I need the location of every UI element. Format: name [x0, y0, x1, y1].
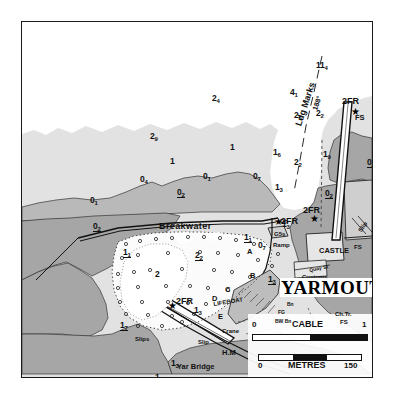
- sounding-23: 11: [123, 248, 131, 258]
- sounding-27: 13: [194, 306, 202, 315]
- light-2fr-inner-label: 2FR: [176, 297, 193, 306]
- sounding-7: 1: [170, 157, 175, 166]
- metres-max-label: 150: [344, 362, 357, 370]
- castle-label: CASTLE: [319, 247, 349, 255]
- sounding-11: 02: [367, 158, 373, 168]
- mooring-trot-d: D: [212, 295, 217, 303]
- scale-bar-metres: 0 METRES 150: [258, 354, 362, 373]
- light-2fr-bw-star-icon: ★: [274, 217, 283, 227]
- sounding-12: 04: [140, 175, 148, 184]
- chart-frame: 1144124252229111622190204010713020201021…: [21, 21, 373, 378]
- sounding-9: 22: [294, 158, 302, 167]
- sounding-14: 07: [253, 172, 261, 181]
- sounding-30: 14: [155, 373, 163, 378]
- light-2fr-pier-label: 2FR: [342, 97, 359, 106]
- cable-max-label: 1: [362, 321, 366, 329]
- metres-min-label: 0: [258, 362, 262, 370]
- cable-bar-fill: [310, 335, 367, 340]
- sounding-21: 11: [244, 233, 252, 243]
- light-2fr-bw-label: 2FR: [281, 217, 298, 226]
- sounding-2: 24: [212, 94, 220, 103]
- light-g5s-label: G5s: [274, 231, 285, 237]
- cable-bar-track: [252, 334, 368, 341]
- cable-unit-label: CABLE: [292, 320, 323, 329]
- sounding-10: 19: [323, 150, 331, 159]
- yar-bridge-label: Yar Bridge: [177, 363, 215, 371]
- crane-label: Crane: [222, 328, 239, 334]
- sounding-15: 13: [275, 183, 283, 192]
- rsyc-quay-block: [344, 180, 372, 240]
- church-tower-label: Ch.Tr.: [335, 311, 352, 317]
- sounding-28: 17: [120, 321, 128, 331]
- chart-root: 1144124252229111622190204010713020201021…: [0, 0, 393, 398]
- sounding-19: 02: [93, 222, 101, 232]
- sounding-5: 29: [150, 132, 158, 141]
- sounding-13: 01: [203, 172, 211, 181]
- slips-west-label: Slips: [135, 336, 149, 342]
- sounding-0: 114: [316, 61, 328, 70]
- ramp-label: Ramp: [273, 242, 290, 248]
- sounding-25: 2: [155, 270, 160, 279]
- light-fg-2-label: FG: [278, 310, 285, 315]
- sounding-6: 1: [230, 143, 235, 152]
- mooring-trot-e: E: [218, 313, 223, 321]
- sounding-26: 13: [268, 275, 276, 285]
- sounding-1: 41: [290, 88, 298, 97]
- beacon-1-label: Bn: [287, 302, 294, 307]
- Breakwater-label: Breakwater: [159, 222, 212, 231]
- light-2fr-inner-star-icon: ★: [168, 301, 177, 311]
- sounding-16: 02: [177, 188, 185, 198]
- page-title: YARMOUTH: [280, 278, 373, 297]
- rsyc-label: RSYC: [372, 244, 373, 250]
- metres-unit-label: METRES: [288, 361, 326, 370]
- harbour-master-label: H.M: [222, 349, 236, 357]
- mooring-trot-c: C: [225, 286, 230, 294]
- sounding-17: 02: [325, 189, 333, 199]
- mooring-trot-b: B: [250, 272, 255, 280]
- sounding-24: 22: [195, 251, 203, 261]
- land-area-northeast: [328, 132, 372, 183]
- cable-min-label: 0: [252, 321, 256, 329]
- sounding-18: 01: [90, 196, 98, 205]
- slip-inner-label: Slip: [198, 339, 209, 345]
- sounding-8: 16: [273, 148, 281, 157]
- mooring-trot-a: A: [247, 248, 252, 256]
- light-2fr-pier-star-icon: ★: [351, 107, 360, 117]
- light-2fr-castle-star-icon: ★: [310, 214, 319, 224]
- flagstaff-rsyc-label: FS: [354, 244, 362, 250]
- scale-bar-cable: 0 CABLE 1: [252, 322, 368, 341]
- sounding-22: 07: [258, 241, 266, 250]
